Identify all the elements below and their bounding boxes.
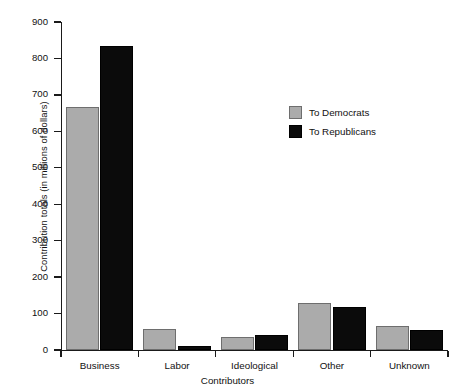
bar-other-democrats — [298, 303, 331, 350]
y-axis-tick-label: 400 — [2, 198, 48, 209]
x-axis-tick — [370, 351, 371, 357]
legend-label-democrats: To Democrats — [309, 107, 369, 118]
y-axis-tick-label: 900 — [2, 16, 48, 27]
y-axis-tick-label: 200 — [2, 271, 48, 282]
y-axis-tick — [54, 58, 61, 59]
legend-swatch-democrats-icon — [289, 106, 302, 119]
legend-swatch-republicans-icon — [289, 125, 302, 138]
y-axis-tick — [54, 131, 61, 132]
y-axis-tick-label: 300 — [2, 234, 48, 245]
y-axis-tick-label: 700 — [2, 88, 48, 99]
y-axis-tick — [54, 94, 61, 95]
x-axis-title: Contributors — [0, 375, 455, 386]
legend-label-republicans: To Republicans — [309, 126, 376, 137]
bar-ideological-democrats — [221, 337, 254, 350]
x-axis-category-label: Unknown — [349, 360, 455, 371]
legend-item-democrats: To Democrats — [289, 104, 376, 120]
x-axis-tick — [215, 351, 216, 357]
y-axis-line — [61, 22, 62, 351]
x-axis-tick — [293, 351, 294, 357]
legend-item-republicans: To Republicans — [289, 123, 376, 139]
bar-business-republicans — [100, 46, 133, 350]
x-axis-line — [61, 350, 448, 351]
y-axis-tick — [54, 167, 61, 168]
y-axis-tick-label: 800 — [2, 52, 48, 63]
bar-labor-republicans — [178, 346, 211, 350]
x-axis-tick — [447, 351, 448, 357]
y-axis-tick — [54, 276, 61, 277]
x-axis-tick — [60, 351, 61, 357]
x-axis-tick — [138, 351, 139, 357]
y-axis-tick — [54, 240, 61, 241]
y-axis-tick — [54, 21, 61, 22]
bar-chart: Contribution totals (in millions of doll… — [0, 0, 455, 387]
bar-labor-democrats — [143, 329, 176, 350]
bar-other-republicans — [333, 307, 366, 350]
y-axis-tick — [54, 204, 61, 205]
y-axis-tick-label: 600 — [2, 125, 48, 136]
bar-unknown-republicans — [410, 330, 443, 350]
y-axis-tick — [54, 313, 61, 314]
y-axis-title: Contribution totals (in millions of doll… — [38, 37, 49, 337]
bar-business-democrats — [66, 107, 99, 350]
bar-unknown-democrats — [376, 326, 409, 350]
bar-ideological-republicans — [255, 335, 288, 350]
y-axis-tick-label: 0 — [2, 344, 48, 355]
y-axis-tick-label: 100 — [2, 307, 48, 318]
y-axis-tick-label: 500 — [2, 161, 48, 172]
chart-legend: To Democrats To Republicans — [289, 104, 376, 142]
